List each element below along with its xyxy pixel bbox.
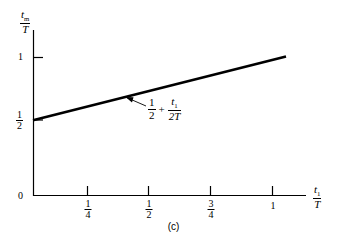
figure-caption: (c) <box>0 221 347 232</box>
y-axis-label-fraction: tm T <box>20 9 30 35</box>
y-axis-label-denominator: T <box>20 24 30 35</box>
annotation-frac2-numerator: t1 <box>168 96 182 111</box>
figure-container: tm T t1 T 1 1 2 0 1 4 1 2 3 4 <box>0 0 347 244</box>
y-tick-label-half: 1 2 <box>16 110 23 131</box>
x-axis-label-denominator: T <box>313 199 321 210</box>
x-tick-label-half: 1 2 <box>146 199 153 220</box>
annotation-frac1-denominator: 2 <box>148 110 156 121</box>
annotation-fraction-one-half: 1 2 <box>148 97 156 120</box>
x-axis-label-fraction: t1 T <box>313 184 321 210</box>
x-tick-three-quarter-denominator: 4 <box>208 210 215 220</box>
x-axis-label-numerator: t1 <box>313 184 321 199</box>
x-tick-half-denominator: 2 <box>146 210 153 220</box>
x-tick-label-three-quarter: 3 4 <box>208 199 215 220</box>
x-tick-half-fraction: 1 2 <box>146 199 153 220</box>
annotation-frac2-denominator: 2T <box>168 111 182 122</box>
x-axis-label: t1 T <box>313 184 321 210</box>
y-axis-label-numerator: tm <box>20 9 30 24</box>
annotation-frac1-numerator: 1 <box>148 97 156 109</box>
x-tick-quarter-denominator: 4 <box>85 210 92 220</box>
annotation-arrowhead <box>126 97 134 103</box>
x-tick-label-one: 1 <box>271 200 276 211</box>
origin-label: 0 <box>18 190 23 201</box>
x-tick-label-quarter: 1 4 <box>85 199 92 220</box>
y-tick-label-1: 1 <box>18 51 23 62</box>
annotation-plus-operator: + <box>156 103 168 115</box>
y-axis-label: tm T <box>20 9 30 35</box>
annotation-fraction-t1-over-2T: t1 2T <box>168 96 182 122</box>
x-tick-quarter-fraction: 1 4 <box>85 199 92 220</box>
curve-annotation: 1 2 + t1 2T <box>148 96 181 122</box>
x-tick-three-quarter-fraction: 3 4 <box>208 199 215 220</box>
y-tick-half-fraction: 1 2 <box>16 110 23 131</box>
y-tick-half-denominator: 2 <box>16 121 23 131</box>
